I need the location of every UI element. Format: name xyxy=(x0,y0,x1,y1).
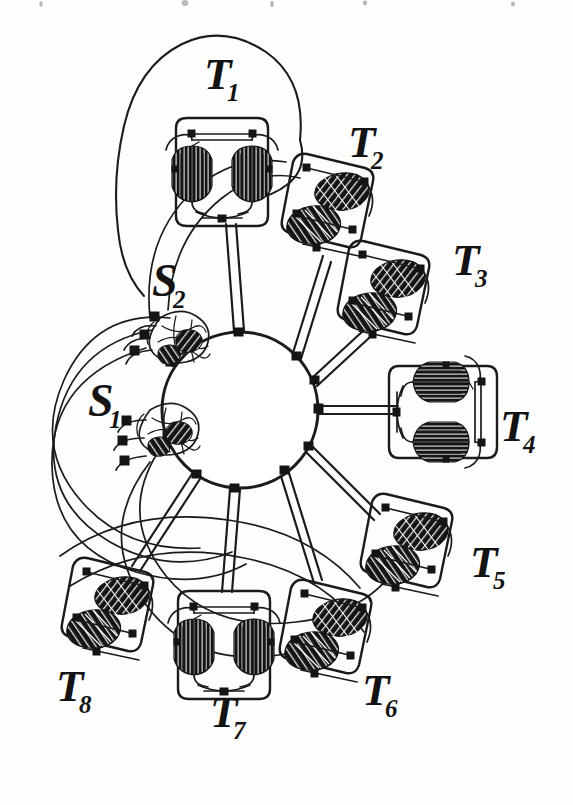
port-S2-b xyxy=(140,330,149,339)
diagram-canvas: T1 T2 T3 T4 T5 T6 T7 T8 S2 S1 xyxy=(0,0,573,805)
spoke-hub-T6 xyxy=(280,470,322,583)
spoke-hub-T2 xyxy=(292,256,331,362)
node-T1[interactable] xyxy=(166,118,278,226)
node-T6[interactable] xyxy=(280,580,372,682)
label-T2: T2 xyxy=(348,120,388,165)
spoke-hub-T5 xyxy=(304,444,380,520)
node-T3[interactable] xyxy=(338,241,430,343)
label-T7: T7 xyxy=(210,690,250,735)
label-T3: T3 xyxy=(452,238,492,283)
port-S1-c xyxy=(120,456,129,465)
node-T7[interactable] xyxy=(168,591,280,699)
node-T4[interactable] xyxy=(389,356,497,468)
port-S2-a xyxy=(150,312,159,321)
scan-artifacts xyxy=(39,0,515,7)
spoke-hub-T4 xyxy=(318,406,398,414)
label-T4: T4 xyxy=(500,404,540,449)
label-T5: T5 xyxy=(470,540,510,585)
label-T6: T6 xyxy=(362,668,402,713)
spoke-hub-T3 xyxy=(312,330,369,386)
label-S1: S1 xyxy=(88,378,126,424)
label-S2: S2 xyxy=(152,258,190,304)
spoke-hub-T1 xyxy=(226,224,244,331)
port-S1-b xyxy=(118,436,127,445)
spoke-hub-T7 xyxy=(222,489,240,592)
label-T1: T1 xyxy=(204,52,244,97)
label-T8: T8 xyxy=(56,664,96,709)
port-S2-c xyxy=(130,346,139,355)
